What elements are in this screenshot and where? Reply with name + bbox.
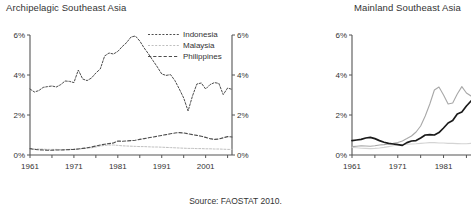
- y-tick-label: 0%: [13, 151, 25, 160]
- y-tick-label-right: 4%: [237, 71, 249, 80]
- x-tick-label: 1981: [109, 162, 127, 171]
- y-tick-label: 6%: [13, 31, 25, 40]
- y-tick-label: 0%: [335, 151, 347, 160]
- y-tick-label: 6%: [335, 31, 347, 40]
- y-tick-label-right: 0%: [237, 151, 249, 160]
- y-tick-label: 4%: [335, 71, 347, 80]
- plot-area-archipelagic: 0%0%2%2%4%4%6%6%19611971198119912001: [0, 0, 262, 190]
- series-line-philippines: [30, 133, 232, 151]
- chart-panel-mainland: Mainland Southeast Asia 0%2%4%6%19611971…: [300, 0, 471, 190]
- source-note: Source: FAOSTAT 2010.: [0, 196, 471, 206]
- legend-archipelagic: IndonesiaMalaysiaPhilippines: [148, 29, 222, 62]
- chart-panel-archipelagic: Archipelagic Southeast Asia 0%0%2%2%4%4%…: [0, 0, 262, 190]
- y-tick-label-right: 6%: [237, 31, 249, 40]
- legend-swatch-indonesia: [148, 30, 179, 39]
- legend-item-malaysia[interactable]: Malaysia: [148, 40, 222, 51]
- legend-item-philippines[interactable]: Philippines: [148, 51, 222, 62]
- x-tick-label: 1971: [389, 162, 407, 171]
- series-line-vietnam: [352, 101, 471, 145]
- x-tick-label: 1961: [21, 162, 39, 171]
- series-line-burma: [352, 143, 471, 149]
- x-tick-label: 1961: [343, 162, 361, 171]
- x-tick-label: 1981: [435, 162, 453, 171]
- legend-label-indonesia: Indonesia: [183, 29, 218, 40]
- plot-area-mainland: 0%2%4%6%196119711981: [300, 0, 471, 190]
- legend-label-philippines: Philippines: [183, 51, 222, 62]
- x-tick-label: 1991: [153, 162, 171, 171]
- y-tick-label-right: 2%: [237, 111, 249, 120]
- legend-label-malaysia: Malaysia: [183, 40, 215, 51]
- y-tick-label: 2%: [335, 111, 347, 120]
- x-tick-label: 1971: [65, 162, 83, 171]
- y-tick-label: 2%: [13, 111, 25, 120]
- y-tick-label: 4%: [13, 71, 25, 80]
- legend-swatch-malaysia: [148, 41, 179, 50]
- series-line-malaysia: [30, 145, 232, 150]
- legend-item-indonesia[interactable]: Indonesia: [148, 29, 222, 40]
- x-tick-label: 2001: [197, 162, 215, 171]
- legend-swatch-philippines: [148, 52, 179, 61]
